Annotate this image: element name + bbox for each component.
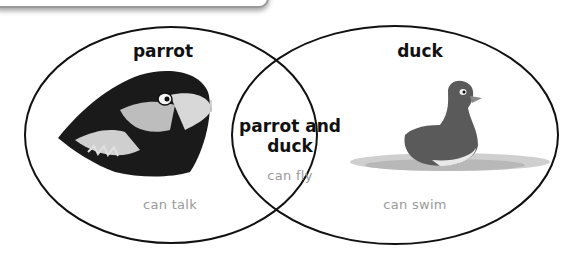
intersection-trait: can fly — [240, 168, 340, 183]
intersection-title-line2: duck — [230, 136, 350, 156]
intersection-title-line1: parrot and — [230, 116, 350, 136]
parrot-set-title: parrot — [108, 41, 218, 61]
duck-trait: can swim — [365, 197, 465, 212]
parrot-icon — [58, 71, 212, 177]
duck-icon — [350, 81, 550, 171]
parrot-trait: can talk — [120, 197, 220, 212]
duck-set-title: duck — [370, 41, 470, 61]
